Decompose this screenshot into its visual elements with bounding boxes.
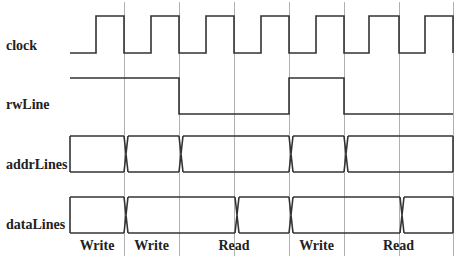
bus-transition [400, 197, 404, 233]
rwline-waveform [70, 78, 453, 114]
timing-diagram [0, 0, 459, 258]
phase-label-write-3: Write [289, 238, 344, 254]
clock-waveform [70, 16, 453, 53]
phase-label-read-2: Read [344, 238, 453, 254]
phase-label-write-1: Write [70, 238, 124, 254]
datalines-bus [70, 197, 453, 233]
signal-label-addrlines: addrLines [6, 157, 67, 173]
signal-label-rwline: rwLine [6, 97, 50, 113]
signal-label-clock: clock [6, 38, 37, 54]
phase-label-read-1: Read [179, 238, 289, 254]
addrlines-bus [70, 136, 453, 172]
phase-label-write-2: Write [124, 238, 179, 254]
bus-transition [235, 197, 239, 233]
signal-label-datalines: dataLines [6, 217, 65, 233]
